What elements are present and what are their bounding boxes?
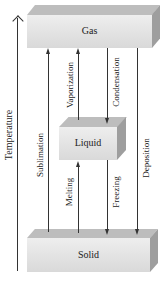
condensation-arrow-line <box>107 48 108 120</box>
vaporization-arrowhead-icon <box>76 48 80 54</box>
vaporization-arrow-line <box>78 54 79 120</box>
sublimation-arrowhead-icon <box>46 48 50 54</box>
deposition-arrowhead-icon <box>135 229 139 235</box>
solid-box-front: Solid <box>27 238 150 272</box>
freezing-label: Freezing <box>111 176 121 208</box>
condensation-label: Condensation <box>111 57 121 107</box>
sublimation-arrow-line <box>48 54 49 232</box>
deposition-arrow-line <box>137 48 138 232</box>
freezing-arrow-line <box>107 160 108 232</box>
melting-label: Melting <box>64 178 74 207</box>
melting-arrowhead-icon <box>76 161 80 167</box>
deposition-label: Deposition <box>141 138 151 178</box>
vaporization-label: Vaporization <box>65 62 75 108</box>
condensation-arrowhead-icon <box>105 118 109 124</box>
solid-box: Solid <box>0 0 163 283</box>
solid-label: Solid <box>27 249 150 260</box>
sublimation-label: Sublimation <box>35 133 45 177</box>
melting-arrow-line <box>78 167 79 233</box>
freezing-arrowhead-icon <box>105 229 109 235</box>
